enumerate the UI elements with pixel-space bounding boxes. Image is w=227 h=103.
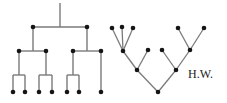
right-tree-node-R-r1 [174, 68, 179, 73]
figure-canvas: H.W. [0, 0, 227, 103]
left-tree-edges [13, 3, 101, 92]
right-tree-edge-R-r3-R-t4 [178, 28, 190, 50]
right-tree-node-R-t1 [110, 26, 115, 31]
right-tree-edge-R-l1-R-l3 [137, 50, 148, 70]
right-tree-node-R-r2 [160, 48, 165, 53]
left-tree-node-L-e [71, 49, 76, 54]
left-tree-node-L-c [17, 49, 22, 54]
left-tree-node-L-h [23, 90, 28, 95]
right-tree-node-R-root [156, 90, 161, 95]
left-tree-node-L-k [65, 90, 70, 95]
left-tree-node-L-d [44, 49, 49, 54]
left-tree-node-L-g [11, 90, 16, 95]
right-tree-edge-R-r3-R-t5 [190, 28, 204, 50]
left-tree-node-L-i [37, 90, 42, 95]
left-tree-node-L-a [31, 25, 36, 30]
right-tree-edge-R-root-R-r1 [158, 70, 176, 92]
right-tree-node-R-t2 [120, 25, 125, 30]
right-tree-node-R-t5 [202, 26, 207, 31]
right-tree-edge-R-root-R-l1 [137, 70, 158, 92]
right-tree-edge-R-l1-R-l2 [123, 51, 137, 70]
left-tree-node-L-j [50, 90, 55, 95]
right-tree-edge-R-r1-R-r2 [162, 50, 176, 70]
left-tree-node-L-m [99, 90, 104, 95]
left-tree-node-L-f [99, 49, 104, 54]
left-tree-node-L-l [77, 90, 82, 95]
right-tree-edge-R-l2-R-t3 [123, 28, 133, 51]
signature-label: H.W. [188, 67, 213, 82]
right-tree-node-R-t3 [131, 26, 136, 31]
right-tree-edges [112, 27, 204, 92]
tree-diagram-svg [0, 0, 227, 103]
right-tree-edge-R-l2-R-t1 [112, 28, 123, 51]
right-tree-nodes [110, 25, 207, 95]
left-tree-node-L-b [85, 25, 90, 30]
right-tree-node-R-t4 [176, 26, 181, 31]
right-tree-edge-R-l2-R-t2 [122, 27, 123, 51]
right-tree-node-R-l2 [121, 49, 126, 54]
right-tree-node-R-r3 [188, 48, 193, 53]
right-tree-node-R-l1 [135, 68, 140, 73]
right-tree-node-R-l3 [146, 48, 151, 53]
